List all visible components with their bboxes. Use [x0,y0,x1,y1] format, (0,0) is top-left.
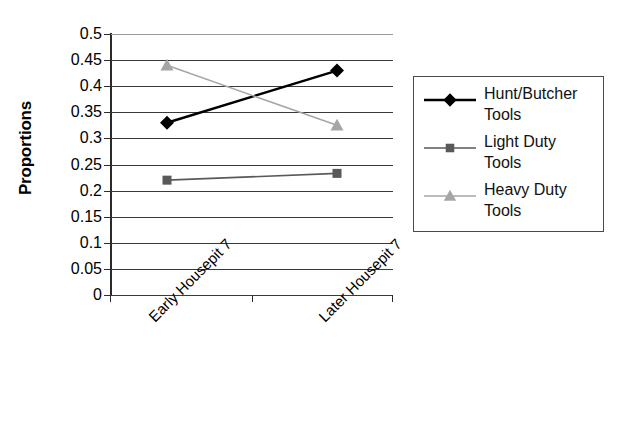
legend-label-line2: Tools [484,152,604,173]
plot-area [110,34,393,295]
legend-label: Heavy DutyTools [484,179,604,221]
x-axis-tickmark [252,295,253,302]
legend-label-line1: Heavy Duty [484,179,604,200]
line-chart: Proportions 0.50.450.40.350.30.250.20.15… [0,0,623,445]
series-line [167,65,337,125]
y-axis-tick-label: 0.35 [44,104,102,120]
y-axis-tick-label: 0.45 [44,52,102,68]
legend-label-line2: Tools [484,104,604,125]
legend-label-line1: Hunt/Butcher [484,83,604,104]
legend-label-line1: Light Duty [484,131,604,152]
legend-item[interactable]: Light DutyTools [422,135,600,181]
series-2 [163,169,342,185]
y-axis-tick-label: 0 [44,287,102,303]
data-point-square [163,176,172,185]
y-axis-title: Proportions [16,78,36,218]
legend-label-line2: Tools [484,200,604,221]
legend-label: Hunt/ButcherTools [484,83,604,125]
legend-marker-triangle-icon [422,187,478,205]
x-axis-tickmark [110,295,111,302]
y-axis-tick-labels: 0.50.450.40.350.30.250.20.150.10.050 [44,0,102,445]
legend-marker-diamond-icon [422,91,478,109]
y-axis-tick-label: 0.2 [44,183,102,199]
series-line [167,173,337,180]
data-point-square [333,169,342,178]
y-axis-tick-label: 0.4 [44,78,102,94]
data-point-diamond [160,116,174,130]
series-line [167,71,337,123]
y-axis-tick-label: 0.25 [44,157,102,173]
y-axis-tick-label: 0.1 [44,235,102,251]
y-axis-tick-label: 0.05 [44,261,102,277]
x-axis-tickmark [392,295,393,302]
series-1 [160,64,344,130]
legend-item[interactable]: Hunt/ButcherTools [422,87,600,133]
y-axis-tick-label: 0.5 [44,26,102,42]
data-point-triangle [161,59,174,71]
data-point-triangle [331,119,344,131]
legend-item[interactable]: Heavy DutyTools [422,183,600,229]
series-layer [110,34,393,295]
legend-label: Light DutyTools [484,131,604,173]
data-point-diamond [330,64,344,78]
y-axis-tick-label: 0.15 [44,209,102,225]
legend-marker-square-icon [422,139,478,157]
legend: Hunt/ButcherToolsLight DutyToolsHeavy Du… [413,76,604,232]
series-3 [161,59,344,131]
y-axis-tick-label: 0.3 [44,130,102,146]
